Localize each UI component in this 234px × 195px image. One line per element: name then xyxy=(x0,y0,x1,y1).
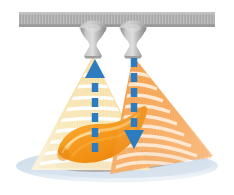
mounting-rail xyxy=(19,12,215,27)
acoustic-levitation-diagram xyxy=(0,0,234,195)
beam-overlay-wash xyxy=(110,56,213,174)
illustration-canvas xyxy=(0,0,234,195)
right-transducer xyxy=(120,21,147,59)
left-transducer xyxy=(80,21,107,59)
